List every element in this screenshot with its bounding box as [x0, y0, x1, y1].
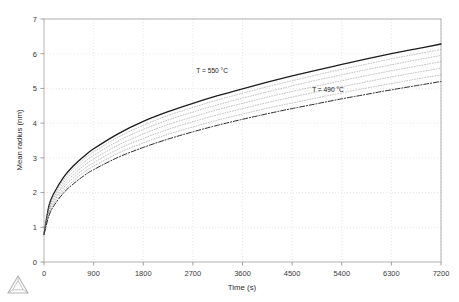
y-tick-label: 1	[33, 223, 37, 232]
chart-figure: 09001800270036004500540063007200 0123456…	[0, 0, 459, 302]
curve-label-490: T = 490 °C	[312, 86, 344, 93]
x-tick-label: 2700	[185, 269, 202, 278]
y-tick-label: 3	[33, 154, 37, 163]
y-axis-title: Mean radius (nm)	[15, 109, 24, 170]
x-tick-label: 5400	[333, 269, 350, 278]
x-tick-label: 7200	[433, 269, 450, 278]
x-axis-title: Time (s)	[228, 283, 257, 292]
y-tick-label: 2	[33, 188, 37, 197]
x-tick-label: 6300	[383, 269, 400, 278]
x-tick-label: 1800	[135, 269, 152, 278]
x-tick-label: 900	[87, 269, 100, 278]
x-tick-label: 3600	[234, 269, 251, 278]
y-tick-label: 6	[33, 50, 37, 59]
line-chart: 09001800270036004500540063007200 0123456…	[0, 0, 459, 302]
x-tick-label: 4500	[284, 269, 301, 278]
y-tick-label: 7	[33, 15, 37, 24]
curve-label-550: T = 550 °C	[196, 67, 228, 74]
y-tick-label: 0	[33, 258, 37, 267]
y-tick-label: 4	[33, 119, 37, 128]
x-tick-label: 0	[42, 269, 46, 278]
y-tick-label: 5	[33, 84, 37, 93]
chart-background	[0, 0, 459, 302]
